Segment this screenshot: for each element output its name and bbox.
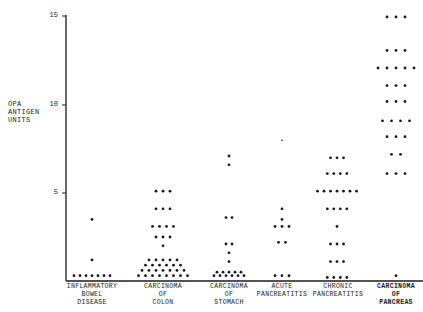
category-label-colon: CARCINOMA OF COLON — [128, 283, 198, 307]
data-point — [404, 84, 407, 87]
data-point — [277, 241, 280, 244]
data-point — [162, 207, 165, 210]
data-point — [404, 135, 407, 138]
data-point — [165, 274, 168, 277]
data-point — [151, 274, 154, 277]
data-point — [162, 236, 165, 239]
data-point — [342, 243, 345, 246]
data-point — [336, 156, 339, 159]
data-point — [228, 271, 231, 274]
data-point — [97, 274, 100, 277]
data-point — [395, 100, 398, 103]
data-point — [349, 190, 352, 193]
data-point — [155, 207, 158, 210]
data-point — [284, 241, 287, 244]
data-point — [240, 271, 243, 274]
data-point — [228, 260, 231, 263]
data-points — [73, 16, 416, 279]
data-point — [288, 274, 291, 277]
data-point — [281, 139, 283, 141]
data-point — [213, 274, 216, 277]
data-point — [162, 269, 165, 272]
data-point — [395, 84, 398, 87]
data-point — [332, 172, 335, 175]
data-point — [281, 274, 284, 277]
data-point — [169, 259, 172, 262]
data-point — [399, 119, 402, 122]
data-point — [336, 243, 339, 246]
data-point — [158, 225, 161, 228]
data-point — [390, 153, 393, 156]
data-point — [176, 269, 179, 272]
data-point — [326, 276, 329, 279]
data-point — [231, 243, 234, 246]
data-point — [404, 49, 407, 52]
data-point — [216, 271, 219, 274]
data-point — [399, 153, 402, 156]
data-point — [151, 264, 154, 267]
data-point — [165, 264, 168, 267]
dot-plot-chart: OPA ANTIGEN UNITS 15 10 5 INFLAMMATORY B… — [0, 0, 423, 312]
data-point — [228, 251, 231, 254]
data-point — [228, 155, 231, 158]
data-point — [281, 225, 284, 228]
data-point — [144, 264, 147, 267]
data-point — [144, 274, 147, 277]
data-point — [281, 218, 284, 221]
data-point — [183, 269, 186, 272]
data-point — [103, 274, 106, 277]
data-point — [91, 274, 94, 277]
data-point — [386, 84, 389, 87]
data-point — [219, 274, 222, 277]
data-point — [274, 274, 277, 277]
data-point — [179, 274, 182, 277]
data-point — [231, 274, 234, 277]
data-point — [316, 190, 319, 193]
data-point — [390, 119, 393, 122]
data-point — [172, 274, 175, 277]
data-point — [329, 156, 332, 159]
data-point — [169, 190, 172, 193]
category-label-ibd: INFLAMMATORY BOWEL DISEASE — [57, 283, 127, 307]
data-point — [345, 276, 348, 279]
data-point — [158, 264, 161, 267]
data-point — [404, 16, 407, 19]
data-point — [73, 274, 76, 277]
plot-area — [0, 0, 423, 312]
data-point — [345, 172, 348, 175]
data-point — [162, 190, 165, 193]
data-point — [274, 225, 277, 228]
data-point — [151, 225, 154, 228]
data-point — [109, 274, 112, 277]
data-point — [329, 190, 332, 193]
data-point — [336, 260, 339, 263]
data-point — [137, 274, 140, 277]
data-point — [386, 172, 389, 175]
data-point — [91, 218, 94, 221]
data-point — [336, 190, 339, 193]
data-point — [176, 259, 179, 262]
data-point — [228, 163, 231, 166]
data-point — [162, 244, 165, 247]
data-point — [386, 100, 389, 103]
data-point — [395, 49, 398, 52]
data-point — [339, 207, 342, 210]
data-point — [404, 100, 407, 103]
data-point — [336, 225, 339, 228]
data-point — [281, 207, 284, 210]
data-point — [155, 269, 158, 272]
data-point — [326, 172, 329, 175]
data-point — [381, 119, 384, 122]
data-point — [386, 67, 389, 70]
data-point — [386, 49, 389, 52]
data-point — [225, 243, 228, 246]
data-point — [91, 259, 94, 262]
data-point — [179, 264, 182, 267]
data-point — [386, 16, 389, 19]
data-point — [339, 172, 342, 175]
data-point — [172, 225, 175, 228]
data-point — [404, 67, 407, 70]
data-point — [345, 207, 348, 210]
data-point — [323, 190, 326, 193]
data-point — [404, 172, 407, 175]
